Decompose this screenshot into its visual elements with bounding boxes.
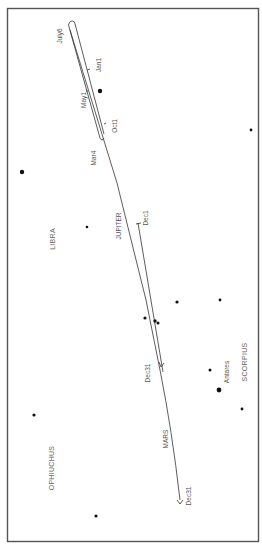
star: [209, 369, 212, 372]
label-dec31-mars: Dec31: [185, 486, 192, 505]
jupiter-dec-track: [138, 223, 163, 372]
jupiter-loop-outer-track: [69, 21, 105, 134]
star: [157, 322, 160, 325]
star-chart: July6 Jan1 May1 Oct1 Mar4 LIBRA JUPITER …: [0, 0, 262, 552]
chart-frame: [8, 9, 259, 542]
star: [94, 514, 97, 517]
star: [143, 316, 146, 319]
star: [32, 413, 35, 416]
dec1-tick: [136, 223, 141, 224]
star: [86, 226, 89, 229]
antares-star: [217, 388, 222, 393]
star: [175, 300, 178, 303]
label-jan1: Jan1: [95, 58, 102, 72]
star: [20, 170, 24, 174]
star: [219, 299, 222, 302]
label-ophiuchus: OPHIUCHUS: [48, 446, 55, 491]
label-scorpius: SCORPIUS: [241, 342, 248, 381]
star: [98, 89, 102, 93]
label-july6: July6: [56, 28, 64, 44]
mars-dec31-arrow: [177, 500, 183, 504]
star: [153, 319, 156, 322]
label-antares: Antares: [223, 360, 230, 383]
label-libra: LIBRA: [49, 228, 56, 250]
label-mars: MARS: [162, 429, 169, 448]
star: [241, 408, 244, 411]
label-oct1: Oct1: [111, 119, 118, 133]
jan1-tick: [87, 69, 90, 70]
oct1-tick: [104, 123, 106, 124]
label-dec1: Dec1: [142, 210, 149, 226]
label-mar4: Mar4: [90, 150, 97, 165]
label-may1: May1: [80, 92, 88, 108]
label-dec31-jupiter: Dec31: [144, 363, 151, 382]
label-jupiter: JUPITER: [115, 212, 122, 239]
star: [250, 129, 253, 132]
